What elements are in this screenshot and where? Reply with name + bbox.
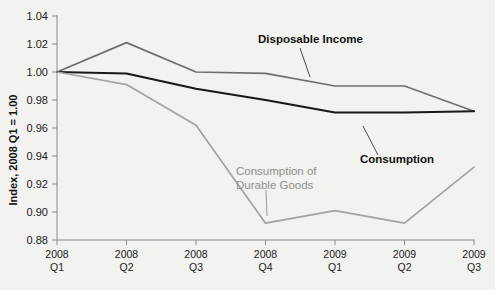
y-axis-title-group: Index, 2008 Q1 = 1.00 <box>7 95 19 206</box>
x-axis-tick-label-quarter: Q1 <box>50 261 64 273</box>
x-axis-tick-label-year: 2008 <box>45 248 69 260</box>
x-axis-tick-label-year: 2008 <box>254 248 278 260</box>
y-axis-tick-label: 0.88 <box>27 234 48 246</box>
y-axis-tick-label: 1.00 <box>27 66 48 78</box>
x-axis-tick-label-year: 2009 <box>323 248 347 260</box>
x-axis-tick-label-quarter: Q1 <box>328 261 342 273</box>
y-axis-tick-label: 0.96 <box>27 122 48 134</box>
y-axis-title: Index, 2008 Q1 = 1.00 <box>7 95 19 206</box>
x-axis-tick-label-year: 2009 <box>393 248 417 260</box>
y-axis-tick-label: 0.98 <box>27 94 48 106</box>
x-axis-tick-label-quarter: Q3 <box>189 261 203 273</box>
annotation-label-consumption: Consumption <box>360 153 434 165</box>
x-axis-tick-label-quarter: Q2 <box>119 261 133 273</box>
x-axis-tick-label-year: 2008 <box>115 248 139 260</box>
x-axis-tick-label-quarter: Q3 <box>467 261 481 273</box>
annotation-label-disposable-income: Disposable Income <box>258 33 363 45</box>
line-chart: 0.880.900.920.940.960.981.001.021.042008… <box>0 0 495 290</box>
y-axis-tick-label: 1.04 <box>27 10 48 22</box>
y-axis-tick-label: 0.90 <box>27 206 48 218</box>
x-axis-tick-label-year: 2009 <box>462 248 486 260</box>
chart-background <box>0 0 495 290</box>
x-axis-tick-label-quarter: Q4 <box>258 261 272 273</box>
y-axis-tick-label: 0.94 <box>27 150 48 162</box>
x-axis-tick-label-year: 2008 <box>184 248 208 260</box>
y-axis-tick-label: 1.02 <box>27 38 48 50</box>
x-axis-tick-label-quarter: Q2 <box>397 261 411 273</box>
y-axis-tick-label: 0.92 <box>27 178 48 190</box>
chart-container: 0.880.900.920.940.960.981.001.021.042008… <box>0 0 495 290</box>
